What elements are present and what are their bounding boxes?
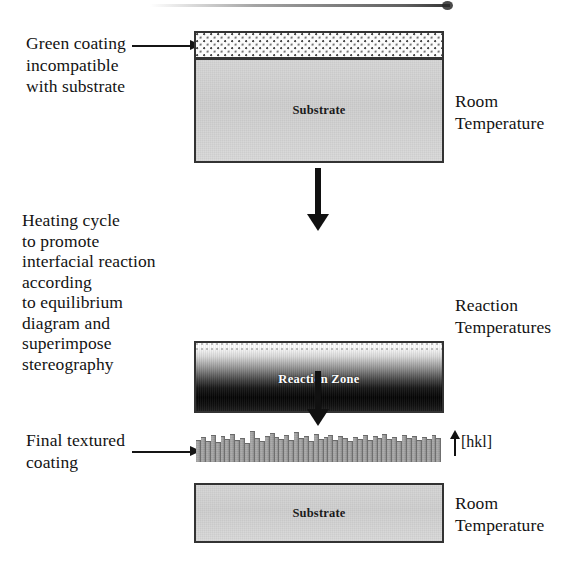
stage-1-leader-line: [132, 45, 192, 47]
stage-2-right-caption: Reaction Temperatures: [455, 295, 567, 338]
coating-grain: [436, 438, 441, 462]
stage-3-leader-line: [132, 451, 192, 453]
diagram-canvas: Green coating incompatible with substrat…: [0, 0, 567, 583]
stage-2-substrate-label: Substrate: [196, 506, 442, 521]
reaction-zone-speckle-texture: [196, 343, 442, 353]
clipped-top-rule-terminator-icon: [442, 1, 453, 10]
stage-3-right-caption: Room Temperature: [455, 493, 565, 536]
clipped-top-rule: [150, 4, 450, 7]
flow-arrow-1-shaft: [315, 168, 321, 216]
stage-1-left-caption: Green coating incompatible with substrat…: [26, 33, 191, 98]
flow-arrow-1-head-icon: [307, 214, 329, 231]
stage-2-substrate-layer: Substrate: [194, 483, 444, 543]
hkl-label: [hkl]: [461, 433, 492, 451]
textured-coating-layer: [196, 424, 442, 462]
flow-arrow-2-shaft: [315, 371, 321, 411]
stage-1-substrate-layer: Substrate: [194, 58, 444, 163]
stage-1-substrate-label: Substrate: [196, 103, 442, 118]
green-coating-layer: [194, 31, 444, 59]
stage-2-left-caption: Heating cycle to promote interfacial rea…: [22, 210, 197, 374]
hkl-annotation: [hkl]: [450, 430, 492, 456]
hkl-direction-arrow-icon: [450, 430, 460, 456]
stage-1-right-caption: Room Temperature: [455, 91, 565, 134]
